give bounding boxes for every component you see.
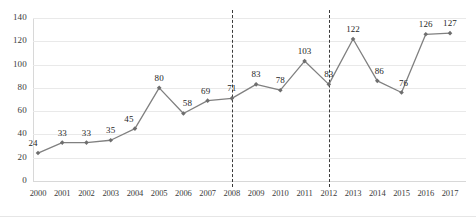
data-point-label: 122 bbox=[346, 24, 360, 34]
reference-line-2012 bbox=[329, 10, 330, 187]
data-point-label: 45 bbox=[124, 114, 133, 124]
plot-area bbox=[33, 18, 466, 181]
reference-line-2008 bbox=[232, 10, 233, 187]
data-point-label: 33 bbox=[82, 128, 91, 138]
x-tick-label: 2017 bbox=[436, 188, 464, 198]
gridline bbox=[33, 88, 466, 89]
gridline bbox=[33, 134, 466, 135]
gridline bbox=[33, 111, 466, 112]
data-point-label: 78 bbox=[276, 75, 285, 85]
data-point-label: 80 bbox=[155, 73, 164, 83]
data-point-label: 126 bbox=[419, 19, 433, 29]
y-tick-label: 60 bbox=[0, 105, 27, 115]
y-tick-label: 80 bbox=[0, 82, 27, 92]
y-tick-label: 20 bbox=[0, 152, 27, 162]
data-point-label: 127 bbox=[443, 18, 457, 28]
data-point-label: 76 bbox=[399, 78, 408, 88]
y-tick-label: 40 bbox=[0, 128, 27, 138]
y-tick-label: 140 bbox=[0, 12, 27, 22]
data-point-label: 83 bbox=[252, 69, 261, 79]
y-tick-label: 120 bbox=[0, 35, 27, 45]
gridline bbox=[33, 181, 466, 182]
data-point-label: 58 bbox=[183, 98, 192, 108]
data-point-label: 33 bbox=[58, 128, 67, 138]
line-chart: 020406080100120140 200020012002200320042… bbox=[0, 0, 476, 217]
data-point-label: 86 bbox=[375, 66, 384, 76]
gridline bbox=[33, 18, 466, 19]
data-point-label: 69 bbox=[201, 86, 210, 96]
data-point-label: 103 bbox=[298, 46, 312, 56]
data-point-label: 35 bbox=[106, 125, 115, 135]
y-tick-label: 0 bbox=[0, 175, 27, 185]
data-point-label: 24 bbox=[28, 138, 37, 148]
gridline bbox=[33, 41, 466, 42]
gridline bbox=[33, 65, 466, 66]
y-tick-label: 100 bbox=[0, 59, 27, 69]
data-point-label: 71 bbox=[227, 83, 236, 93]
gridline bbox=[33, 158, 466, 159]
data-point-label: 83 bbox=[324, 69, 333, 79]
